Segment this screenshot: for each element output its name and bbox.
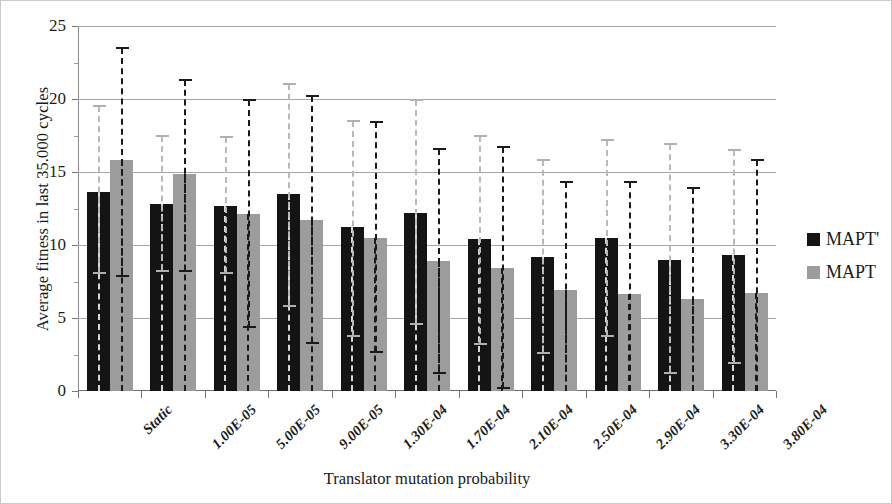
error-bar-cap-bottom [156,270,169,272]
y-tick-label-5: 5 [26,309,66,326]
error-bar [692,188,694,391]
bar-group [332,26,395,391]
error-bar [606,140,608,336]
error-bar [502,147,504,388]
error-bar [629,182,631,391]
x-tick-label: 9.00E-05 [336,401,388,453]
error-bar-cap-bottom [537,352,550,354]
error-bar-cap-top [283,83,296,85]
y-axis-title: Average fitness in last 35.000 cycles [33,19,53,399]
chart-figure: Average fitness in last 35.000 cycles 05… [0,0,892,504]
error-bar-cap-bottom [370,351,383,353]
error-bar [225,137,227,273]
error-bar-cap-bottom [243,326,256,328]
error-bar-cap-top [220,136,233,138]
x-tick-label: 1.70E-04 [462,401,514,453]
error-bar-cap-bottom [474,343,487,345]
error-bar-cap-top [497,146,510,148]
legend-item-1[interactable]: MAPT [807,256,892,289]
error-bar-cap-bottom [347,335,360,337]
bar-group [395,26,458,391]
bar-group [649,26,712,391]
error-bar-cap-bottom [601,335,614,337]
y-tick-label-0: 0 [26,382,66,399]
error-bar [184,80,186,271]
y-tick-label-25: 25 [26,17,66,34]
error-bar-cap-top [156,135,169,137]
plot-area [78,26,776,391]
x-axis-labels: Static1.00E-055.00E-059.00E-051.30E-041.… [78,395,776,465]
bar-group [141,26,204,391]
error-bar [479,136,481,345]
y-tick-label-20: 20 [26,90,66,107]
error-bar [756,160,758,391]
error-bar-cap-bottom [116,275,129,277]
error-bar-cap-top [116,47,129,49]
error-bar-cap-top [433,148,446,150]
error-bar [161,136,163,272]
error-bar-cap-top [687,187,700,189]
x-axis-title: Translator mutation probability [78,469,776,489]
error-bar-cap-top [537,159,550,161]
x-tick-mark [776,391,777,398]
error-bar-cap-top [93,105,106,107]
bar-group [586,26,649,391]
error-bar [98,106,100,272]
error-bar [311,96,313,343]
error-bar [375,122,377,351]
error-bar-cap-top [664,143,677,145]
y-tick-label-10: 10 [26,236,66,253]
x-tick-label: 3.80E-04 [780,401,832,453]
error-bar-cap-bottom [497,387,510,389]
error-bar-cap-top [474,135,487,137]
error-bar-cap-top [243,99,256,101]
legend-swatch-mapt-prime [807,233,820,246]
x-tick-label: 5.00E-05 [272,401,324,453]
error-bar-cap-top [728,149,741,151]
error-bar [438,149,440,374]
error-bar-cap-bottom [220,272,233,274]
error-bar [352,121,354,336]
error-bar-cap-top [410,99,423,101]
error-bar-cap-bottom [93,272,106,274]
error-bar-cap-bottom [433,372,446,374]
error-bar [248,100,250,326]
x-tick-label: 3.30E-04 [716,401,768,453]
error-bar [669,144,671,373]
error-bar [415,100,417,323]
x-tick-label: 1.00E-05 [209,401,261,453]
error-bar-cap-top [560,181,573,183]
error-bar-cap-bottom [283,305,296,307]
error-bar-cap-top [624,181,637,183]
bar-group [268,26,331,391]
x-tick-label: 1.30E-04 [399,401,451,453]
legend-item-0[interactable]: MAPT' [807,223,892,256]
legend-swatch-mapt [807,266,820,279]
error-bar-cap-bottom [728,362,741,364]
error-bar-cap-top [306,95,319,97]
bar-group [205,26,268,391]
error-bar [733,150,735,363]
error-bar-cap-top [751,159,764,161]
error-bar [288,84,290,306]
error-bar-cap-top [347,120,360,122]
error-bar-cap-top [601,139,614,141]
error-bar [542,160,544,353]
legend-label-mapt: MAPT [826,262,876,283]
error-bar-cap-top [370,121,383,123]
legend-label-mapt-prime: MAPT' [826,229,879,250]
bar-group [522,26,585,391]
error-bar-cap-bottom [179,270,192,272]
error-bar-cap-bottom [664,372,677,374]
bar-group [459,26,522,391]
x-tick-label: 2.90E-04 [653,401,705,453]
y-tick-label-15: 15 [26,163,66,180]
bar-group [713,26,776,391]
error-bar [565,182,567,391]
x-tick-label: 2.10E-04 [526,401,578,453]
legend: MAPT' MAPT [807,223,892,289]
error-bar-cap-top [179,79,192,81]
bar-group [78,26,141,391]
error-bar [121,48,123,276]
error-bar-cap-bottom [410,323,423,325]
